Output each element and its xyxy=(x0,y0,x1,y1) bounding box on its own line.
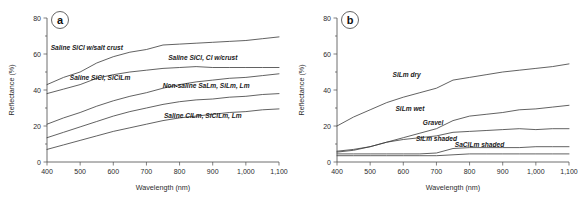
series-label-0: Saline SiCl w/salt crust xyxy=(51,44,124,51)
y-tick-label: 0 xyxy=(37,159,41,166)
series-label-2: Saline SiCl, SiClLm xyxy=(70,74,131,82)
x-tick-label: 1,000 xyxy=(527,168,545,175)
panel-b-plot: 0204060804005006007008009001,0001,100Wav… xyxy=(297,12,578,193)
data-curve-0 xyxy=(337,64,569,126)
y-tick-label: 80 xyxy=(323,15,331,22)
x-tick-label: 800 xyxy=(174,168,186,175)
x-tick-label: 900 xyxy=(497,168,509,175)
chart-panel-b: 0204060804005006007008009001,0001,100Wav… xyxy=(290,0,579,212)
x-tick-label: 1,100 xyxy=(560,168,578,175)
figure-container: 0204060804005006007008009001,0001,100Wav… xyxy=(0,0,579,212)
x-tick-label: 400 xyxy=(41,168,53,175)
x-tick-label: 1,000 xyxy=(237,168,255,175)
x-tick-label: 500 xyxy=(74,168,86,175)
panel-b-svg: 0204060804005006007008009001,0001,100Wav… xyxy=(290,0,579,212)
x-tick-label: 600 xyxy=(397,168,409,175)
x-axis-title: Wavelength (nm) xyxy=(136,183,190,192)
y-tick-label: 60 xyxy=(33,51,41,58)
y-tick-label: 80 xyxy=(33,15,41,22)
y-axis-title: Reflectance (%) xyxy=(7,64,16,115)
series-label-0: SiLm dry xyxy=(392,71,421,79)
x-tick-label: 500 xyxy=(364,168,376,175)
data-curve-1 xyxy=(337,105,569,152)
x-tick-label: 400 xyxy=(331,168,343,175)
x-tick-label: 800 xyxy=(464,168,476,175)
x-axis-title: Wavelength (nm) xyxy=(426,183,480,192)
x-tick-label: 900 xyxy=(207,168,219,175)
x-tick-label: 700 xyxy=(431,168,443,175)
panel-a-svg: 0204060804005006007008009001,0001,100Wav… xyxy=(0,0,289,212)
y-tick-label: 60 xyxy=(323,51,331,58)
x-tick-label: 700 xyxy=(141,168,153,175)
data-curve-3 xyxy=(337,147,569,154)
y-axis-title: Reflectance (%) xyxy=(297,64,306,115)
axis-lines xyxy=(47,18,279,162)
series-label-1: SiLm wet xyxy=(395,105,425,112)
x-tick-label: 600 xyxy=(107,168,119,175)
series-label-1: Saline SiCl, Cl w/crust xyxy=(168,54,238,62)
series-label-3: Non-saline SaLm, SiLm, Lm xyxy=(163,82,250,90)
chart-panel-a: 0204060804005006007008009001,0001,100Wav… xyxy=(0,0,289,212)
panel-tag-label: b xyxy=(347,14,354,26)
y-tick-label: 0 xyxy=(327,159,331,166)
x-tick-label: 1,100 xyxy=(270,168,288,175)
series-label-2: Gravel xyxy=(423,119,444,126)
panel-a-plot: 0204060804005006007008009001,0001,100Wav… xyxy=(7,12,288,193)
y-tick-label: 40 xyxy=(33,87,41,94)
y-tick-label: 20 xyxy=(323,123,331,130)
series-label-3: SiLm shaded xyxy=(416,135,458,142)
panel-tag-label: a xyxy=(57,14,64,26)
series-label-4: Saline ClLm, SiClLm, Lm xyxy=(164,112,242,120)
y-tick-label: 20 xyxy=(33,123,41,130)
series-label-4: SaClLm shaded xyxy=(455,141,505,148)
y-tick-label: 40 xyxy=(323,87,331,94)
